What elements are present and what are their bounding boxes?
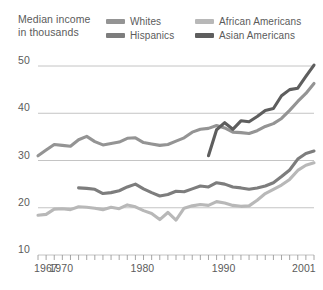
y-axis-label-40: 40: [18, 101, 30, 113]
y-axis-label-30: 30: [18, 149, 30, 161]
plot-area: 1020304050 19671970198019902001: [0, 0, 323, 290]
x-axis-label-2001: 2001: [292, 262, 316, 274]
y-axis-label-50: 50: [18, 54, 30, 66]
series-line-whites: [38, 83, 314, 155]
y-axis-label-20: 20: [18, 196, 30, 208]
x-axis-label-1990: 1990: [212, 262, 236, 274]
chart-svg: [0, 0, 323, 290]
series-line-hispanics: [79, 151, 314, 196]
y-gridlines: [38, 66, 314, 255]
x-tick-marks: [38, 255, 314, 260]
series-lines: [38, 65, 314, 220]
chart-figure: Median income in thousands Whites Africa…: [0, 0, 323, 290]
y-axis-label-10: 10: [18, 243, 30, 255]
series-line-asian-americans: [208, 65, 314, 156]
x-axis-label-1980: 1980: [131, 262, 155, 274]
x-axis-label-1970: 1970: [49, 262, 73, 274]
